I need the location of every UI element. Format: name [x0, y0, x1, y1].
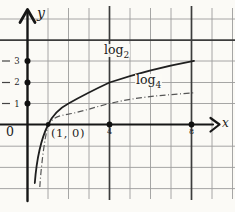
- log4-label-subscript: 4: [156, 80, 162, 90]
- y-tick-label-3: 3: [12, 57, 22, 66]
- point-y3: [25, 58, 31, 64]
- y-axis-label: y: [37, 6, 45, 20]
- log-graph-figure: y x 0 3 2 1 4 8 (1, 0) log2 log4: [0, 0, 235, 212]
- log2-label-subscript: 2: [124, 50, 130, 60]
- log4-label-base: log: [136, 72, 156, 87]
- y-tick-label-2: 2: [12, 78, 22, 87]
- point-1-0: [46, 122, 51, 127]
- y-tick-label-1: 1: [12, 100, 22, 109]
- point-y2: [25, 80, 31, 86]
- log2-label-base: log: [104, 42, 124, 57]
- point-annotation-1-0: (1, 0): [51, 128, 85, 140]
- log4-curve-label: log4: [135, 74, 162, 87]
- y-tick-dashes: [2, 61, 10, 104]
- x-tick-label-4: 4: [105, 128, 115, 136]
- origin-label: 0: [6, 126, 14, 139]
- axes: [0, 10, 213, 201]
- log2-curve: [35, 61, 194, 183]
- graph-canvas: [0, 0, 235, 212]
- x-axis-label: x: [222, 117, 229, 129]
- point-y1: [25, 101, 31, 107]
- log2-curve-label: log2: [103, 44, 130, 57]
- x-tick-label-8: 8: [187, 128, 197, 136]
